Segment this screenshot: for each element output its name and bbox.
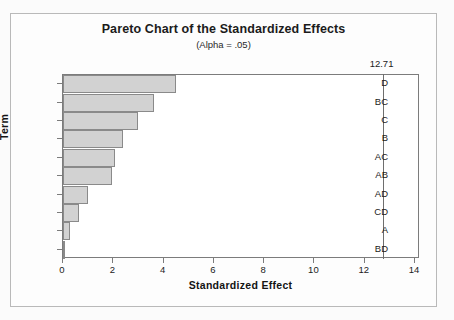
x-tick-label-8: 8 — [260, 264, 265, 275]
bars-container — [63, 75, 418, 257]
bar-row — [63, 130, 420, 148]
reference-line-label: 12.71 — [370, 58, 394, 69]
y-tick-label-ab: AB — [375, 169, 388, 181]
bar-ad — [63, 186, 88, 204]
bar-row — [63, 186, 420, 204]
chart-title: Pareto Chart of the Standardized Effects — [10, 22, 437, 37]
y-tick-label-d: D — [381, 77, 388, 89]
y-axis-title: Term — [0, 114, 10, 140]
y-tick-label-b: B — [382, 132, 388, 144]
x-axis-title: Standardized Effect — [62, 279, 419, 291]
y-tick-mark — [57, 230, 62, 231]
pareto-chart-figure: Pareto Chart of the Standardized Effects… — [0, 0, 454, 320]
bar-bd — [63, 241, 65, 259]
bar-row — [63, 204, 420, 222]
bar-b — [63, 130, 123, 148]
y-tick-label-a: A — [382, 224, 388, 236]
x-tick-mark — [263, 258, 264, 263]
y-tick-mark — [57, 102, 62, 103]
chart-title-block: Pareto Chart of the Standardized Effects… — [10, 22, 437, 51]
y-tick-label-bd: BD — [375, 243, 388, 255]
bar-ab — [63, 167, 112, 185]
y-tick-mark — [57, 212, 62, 213]
x-tick-label-2: 2 — [110, 264, 115, 275]
x-tick-mark — [213, 258, 214, 263]
bar-row — [63, 112, 420, 130]
x-tick-mark — [163, 258, 164, 263]
y-tick-mark — [57, 175, 62, 176]
x-tick-label-14: 14 — [409, 264, 420, 275]
y-tick-mark — [57, 249, 62, 250]
y-tick-mark — [57, 157, 62, 158]
y-tick-label-cd: CD — [374, 206, 388, 218]
x-tick-label-6: 6 — [210, 264, 215, 275]
bar-row — [63, 94, 420, 112]
bar-d — [63, 75, 176, 93]
bar-cd — [63, 204, 79, 222]
x-tick-label-10: 10 — [308, 264, 319, 275]
bar-row — [63, 167, 420, 185]
bar-row — [63, 222, 420, 240]
bar-row — [63, 241, 420, 259]
x-tick-mark — [313, 258, 314, 263]
y-tick-mark — [57, 194, 62, 195]
x-tick-mark — [364, 258, 365, 263]
plot-area — [62, 74, 419, 258]
bar-a — [63, 222, 70, 240]
bar-ac — [63, 149, 115, 167]
x-tick-label-12: 12 — [358, 264, 369, 275]
bar-bc — [63, 94, 154, 112]
chart-subtitle: (Alpha = .05) — [10, 38, 437, 51]
x-tick-mark — [62, 258, 63, 263]
y-tick-label-ad: AD — [375, 188, 388, 200]
y-tick-label-c: C — [381, 114, 388, 126]
x-tick-mark — [414, 258, 415, 263]
y-tick-mark — [57, 138, 62, 139]
bar-row — [63, 75, 420, 93]
bar-c — [63, 112, 138, 130]
x-tick-mark — [112, 258, 113, 263]
x-tick-label-4: 4 — [160, 264, 165, 275]
y-tick-mark — [57, 83, 62, 84]
y-tick-mark — [57, 120, 62, 121]
bar-row — [63, 149, 420, 167]
y-tick-label-ac: AC — [375, 151, 388, 163]
y-tick-label-bc: BC — [375, 96, 388, 108]
x-tick-label-0: 0 — [59, 264, 64, 275]
